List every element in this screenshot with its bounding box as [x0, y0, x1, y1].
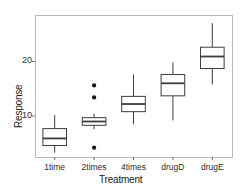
boxplot-drugE	[200, 23, 224, 84]
boxplot-2times	[82, 83, 106, 149]
boxplot-chart: Response Treatment 10201time2times4times…	[0, 0, 241, 190]
y-tick-label: 20	[14, 55, 32, 65]
outlier-point	[92, 146, 96, 150]
boxplot-drugD	[161, 63, 185, 121]
box	[43, 129, 67, 146]
boxplot-4times	[122, 75, 146, 125]
outlier-point	[92, 83, 96, 87]
boxplot-1time	[43, 115, 67, 153]
box	[161, 75, 185, 96]
outlier-point	[92, 95, 96, 99]
box	[200, 47, 224, 68]
x-tick-label-drugE: drugE	[188, 162, 236, 172]
y-tick-label: 10	[14, 110, 32, 120]
